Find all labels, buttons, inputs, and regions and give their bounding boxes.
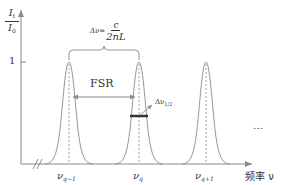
transmission-curve (45, 62, 230, 164)
spacing-brace (69, 46, 139, 60)
formula-lhs: Δν= (90, 27, 105, 35)
transmission-diagram (0, 0, 284, 185)
x-tick-label-q: νq (133, 170, 143, 182)
x-tick-sub: q−1 (63, 175, 76, 182)
y-axis-label: It I0 (5, 7, 19, 37)
fwhm-label-base: Δν (155, 98, 164, 106)
formula-numerator: c (111, 20, 120, 31)
y-tick-label: 1 (9, 55, 15, 66)
x-tick-sub: q (139, 175, 143, 182)
fwhm-label: Δν1/2 (155, 98, 172, 107)
y-label-denominator-sub: 0 (12, 27, 16, 34)
formula-denominator: 2nL (106, 31, 125, 42)
x-tick-sub: q+1 (201, 175, 214, 182)
ellipsis: … (253, 120, 263, 131)
fwhm-label-sub: 1/2 (164, 101, 172, 107)
spacing-formula: Δν= c 2nL (90, 20, 126, 42)
x-axis-label: 频率 ν (245, 168, 274, 183)
x-tick-label-q-plus-1: νq+1 (195, 170, 214, 182)
fsr-label: FSR (90, 77, 113, 90)
x-tick-label-q-minus-1: νq−1 (57, 170, 76, 182)
y-label-numerator-sub: t (13, 12, 15, 19)
